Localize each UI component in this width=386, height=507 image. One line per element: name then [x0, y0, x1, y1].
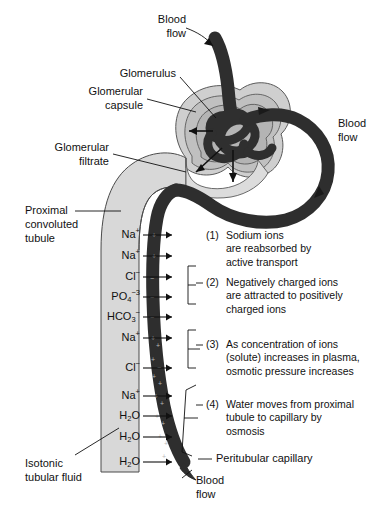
label-proximal-tubule-line2: convoluted	[25, 218, 78, 230]
note-line: osmotic pressure increases	[226, 365, 354, 377]
svg-text:+: +	[156, 342, 160, 349]
svg-text:+: +	[164, 440, 168, 447]
ion-transport-arrowhead	[166, 334, 172, 341]
ion-transport-arrowhead	[166, 364, 172, 371]
note-number: (3)	[206, 338, 219, 350]
nephron-figure: + + − − − + + + − + + + + + + + + +	[0, 0, 386, 507]
label-isotonic-fluid-line2: tubular fluid	[25, 471, 82, 483]
label-blood-flow-bottom-line2: flow	[196, 488, 216, 500]
note-line: As concentration of ions	[226, 338, 338, 350]
label-isotonic-fluid-line1: Isotonic	[25, 457, 63, 469]
note-number: (1)	[206, 229, 219, 241]
peritubular-capillary-vessel	[153, 190, 184, 462]
note-number: (2)	[206, 276, 219, 288]
ion-transport-arrowhead	[166, 458, 172, 465]
label-glomerular-capsule-line2: capsule	[105, 99, 143, 111]
svg-text:+: +	[162, 453, 166, 460]
note-line: Sodium ions	[226, 229, 284, 241]
label-glomerulus: Glomerulus	[120, 67, 177, 79]
label-blood-flow-bottom-line1: Blood	[196, 474, 224, 486]
note-line: charged ions	[226, 303, 286, 315]
label-glomerular-capsule-line1: Glomerular	[89, 85, 144, 97]
note-number: (4)	[206, 398, 219, 410]
svg-text:+: +	[152, 373, 156, 380]
note-brackets	[182, 266, 200, 456]
label-blood-flow-right-line2: flow	[338, 131, 358, 143]
label-glomerular-filtrate-line2: filtrate	[79, 155, 109, 167]
note-line: are reabsorbed by	[226, 242, 312, 254]
nephron-diagram: + + − − − + + + − + + + + + + + + +	[0, 0, 386, 507]
svg-text:−: −	[150, 275, 154, 282]
label-peritubular-capillary: Peritubular capillary	[216, 452, 313, 464]
note-line: tubule to capillary by	[226, 411, 322, 423]
label-blood-flow-top-line1: Blood	[158, 13, 186, 25]
svg-text:+: +	[151, 356, 155, 363]
numbered-notes-group: (1)Sodium ionsare reabsorbed byactive tr…	[196, 229, 360, 437]
note-line: (solute) increases in plasma,	[226, 351, 360, 363]
label-blood-flow-right-line1: Blood	[338, 117, 366, 129]
svg-text:+: +	[161, 420, 165, 427]
ion-transport-arrowhead	[166, 273, 172, 280]
svg-text:+: +	[160, 400, 164, 407]
text-labels: Blood flow Glomerulus Glomerular capsule…	[25, 13, 366, 500]
ion-transport-arrowhead	[166, 252, 172, 259]
ion-transport-arrowhead	[166, 231, 172, 238]
note-line: active transport	[226, 256, 298, 268]
label-proximal-tubule-line3: tubule	[25, 232, 55, 244]
note-line: are attracted to positively	[226, 289, 343, 301]
label-glomerular-filtrate-line1: Glomerular	[55, 141, 110, 153]
note-line: Negatively charged ions	[226, 276, 338, 288]
bracket-note-4	[182, 385, 196, 456]
ion-transport-arrowhead	[166, 293, 172, 300]
note-line: osmosis	[226, 425, 265, 437]
ion-label: HCO3−	[107, 308, 141, 324]
ion-transport-arrowhead	[166, 313, 172, 320]
label-proximal-tubule-line1: Proximal	[25, 204, 68, 216]
svg-text:+: +	[158, 380, 162, 387]
label-blood-flow-top-line2: flow	[166, 27, 186, 39]
note-line: Water moves from proximal	[226, 398, 354, 410]
